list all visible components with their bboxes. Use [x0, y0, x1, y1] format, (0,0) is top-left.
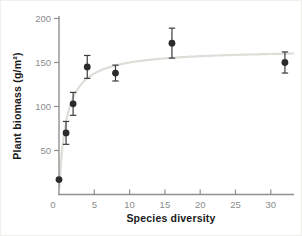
data-point	[56, 176, 63, 183]
x-tick-label: 10	[124, 199, 135, 210]
y-axis-label: Plant biomass (g/m²)	[11, 52, 23, 159]
data-point	[169, 40, 176, 47]
data-point	[112, 70, 119, 77]
biomass-diversity-chart: 05101520253050100150200	[1, 1, 302, 236]
data-point	[84, 64, 91, 71]
data-point	[282, 59, 289, 66]
x-tick-label: 15	[160, 199, 171, 210]
figure: 05101520253050100150200 Species diversit…	[0, 0, 302, 236]
y-tick-label: 50	[40, 145, 51, 156]
x-tick-label: 30	[266, 199, 277, 210]
x-tick-label: 5	[92, 199, 97, 210]
x-tick-label: 0	[50, 199, 55, 210]
data-point	[63, 130, 70, 137]
y-tick-label: 100	[35, 101, 51, 112]
x-tick-label: 20	[195, 199, 206, 210]
x-axis-label: Species diversity	[59, 212, 283, 224]
trend-curve	[59, 54, 293, 188]
data-point	[70, 100, 77, 107]
y-tick-label: 200	[35, 13, 51, 24]
y-tick-label: 150	[35, 57, 51, 68]
x-tick-label: 25	[230, 199, 241, 210]
